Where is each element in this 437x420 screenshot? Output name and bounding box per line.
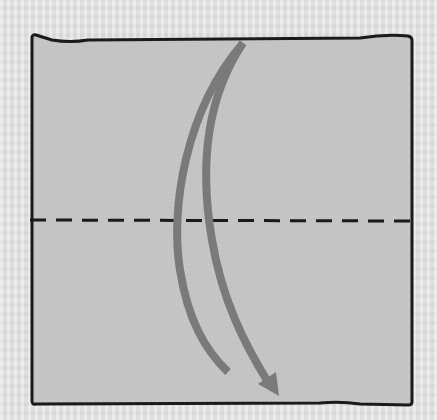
fold-line-dashed (30, 220, 410, 221)
fold-diagram (0, 0, 437, 420)
